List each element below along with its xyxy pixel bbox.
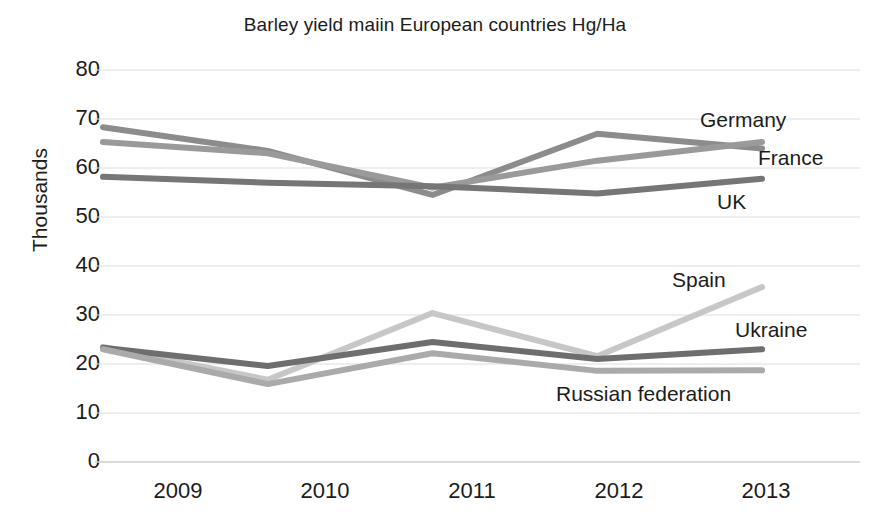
chart-plot-area: [0, 0, 870, 524]
chart-container: Barley yield maiin European countries Hg…: [0, 0, 870, 524]
x-tick-2013: 2013: [706, 478, 826, 504]
x-tick-2012: 2012: [559, 478, 679, 504]
x-tick-2011: 2011: [412, 478, 532, 504]
series-label-uk: UK: [717, 190, 746, 214]
series-line-spain: [103, 287, 762, 380]
x-tick-2010: 2010: [265, 478, 385, 504]
series-label-ukraine: Ukraine: [735, 318, 807, 342]
series-line-uk: [103, 177, 762, 194]
series-label-russia: Russian federation: [556, 382, 731, 406]
series-label-spain: Spain: [672, 268, 726, 292]
series-label-germany: Germany: [700, 108, 786, 132]
series-label-france: France: [758, 146, 823, 170]
series-lines: [103, 127, 762, 384]
x-tick-2009: 2009: [118, 478, 238, 504]
